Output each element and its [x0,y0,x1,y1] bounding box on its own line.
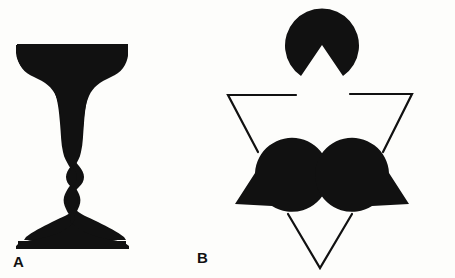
panel-b-label: B [197,250,208,265]
panel-a: A [0,0,190,278]
kanizsa-triangle-illusion [190,0,455,278]
vase-silhouette [16,44,129,249]
rubin-vase-illusion [0,0,190,278]
panel-b: B [190,0,455,278]
outline-corner-bottom [288,214,352,268]
pacman-bottom-right-icon [315,138,409,212]
pacman-top-icon [285,9,359,76]
illusion-figure: A B [0,0,455,278]
panel-a-label: A [13,254,24,269]
pacman-bottom-left-icon [235,138,329,212]
